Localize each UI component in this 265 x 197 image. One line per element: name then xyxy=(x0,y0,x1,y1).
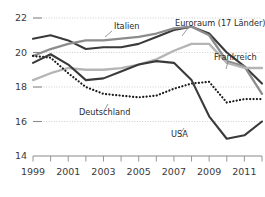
y-axis-tick-label: 18 xyxy=(15,81,27,92)
line-chart: 2220181614 1999200120032005200720092011 … xyxy=(0,0,265,197)
gridlines xyxy=(33,18,262,122)
x-axis-tick-label: 2009 xyxy=(197,166,221,177)
series-label-euroraum-17-l-nder: Euroraum (17 Länder) xyxy=(175,18,265,28)
x-axis-tick-label: 2007 xyxy=(162,166,186,177)
y-axis-tick-label: 22 xyxy=(15,12,27,23)
series-annotations: ItalienEuroraum (17 Länder)FrankreichDeu… xyxy=(79,18,265,139)
series-label-usa: USA xyxy=(171,129,188,139)
series-label-deutschland: Deutschland xyxy=(79,107,130,117)
x-axis-tick-label: 2003 xyxy=(91,166,115,177)
x-axis-labels: 1999200120032005200720092011 xyxy=(21,166,257,177)
y-axis-tick-label: 20 xyxy=(15,47,27,58)
x-axis-tick-label: 2001 xyxy=(56,166,80,177)
annotation-leader xyxy=(105,31,112,37)
data-series xyxy=(33,27,262,139)
x-axis-tick-label: 2005 xyxy=(127,166,151,177)
x-axis xyxy=(33,156,262,162)
chart-svg: 2220181614 1999200120032005200720092011 … xyxy=(0,0,265,197)
y-axis-labels: 2220181614 xyxy=(15,12,27,161)
series-label-frankreich: Frankreich xyxy=(214,52,257,62)
y-axis-tick-label: 14 xyxy=(15,150,27,161)
x-axis-tick-label: 2011 xyxy=(232,166,256,177)
y-axis-tick-label: 16 xyxy=(15,116,27,127)
x-axis-tick-label: 1999 xyxy=(21,166,45,177)
series-label-italien: Italien xyxy=(114,21,139,31)
